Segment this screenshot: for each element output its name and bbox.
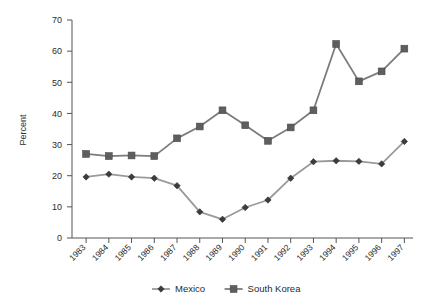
data-point bbox=[401, 45, 408, 52]
chart-canvas: Percent 010203040506070 1983198419851986… bbox=[0, 0, 428, 303]
data-point bbox=[174, 135, 181, 142]
legend-marker bbox=[230, 286, 237, 293]
data-point bbox=[265, 137, 272, 144]
data-point bbox=[196, 123, 203, 130]
legend-label: South Korea bbox=[248, 283, 302, 294]
data-point bbox=[242, 122, 249, 129]
data-point bbox=[378, 68, 385, 75]
data-point bbox=[310, 107, 317, 114]
y-tick-label: 20 bbox=[52, 171, 62, 181]
data-point bbox=[105, 153, 112, 160]
data-point bbox=[333, 41, 340, 48]
y-tick-label: 10 bbox=[52, 202, 62, 212]
legend-label: Mexico bbox=[175, 283, 205, 294]
line-chart: Percent 010203040506070 1983198419851986… bbox=[0, 0, 428, 303]
data-point bbox=[151, 153, 158, 160]
data-point bbox=[128, 152, 135, 159]
y-tick-label: 30 bbox=[52, 140, 62, 150]
y-tick-label: 50 bbox=[52, 78, 62, 88]
data-point bbox=[355, 78, 362, 85]
y-tick-label: 70 bbox=[52, 15, 62, 25]
data-point bbox=[83, 151, 90, 158]
y-axis-title: Percent bbox=[18, 114, 28, 146]
data-point bbox=[287, 124, 294, 131]
y-tick-label: 60 bbox=[52, 46, 62, 56]
y-tick-label: 40 bbox=[52, 109, 62, 119]
data-point bbox=[219, 107, 226, 114]
y-tick-label: 0 bbox=[57, 233, 62, 243]
